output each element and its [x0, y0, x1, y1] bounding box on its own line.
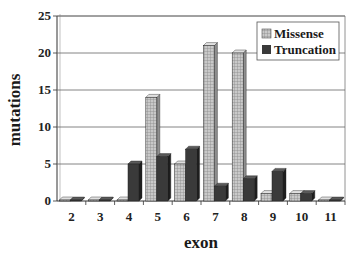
x-tick-label: 6 — [183, 209, 190, 224]
legend: Missense Truncation — [257, 22, 339, 60]
x-tick-label: 10 — [295, 209, 308, 224]
x-tick-label: 7 — [212, 209, 219, 224]
bar-truncation-exon-5 — [157, 154, 171, 201]
x-tick-label: 2 — [68, 209, 75, 224]
y-tick-label: 20 — [38, 45, 51, 60]
bar-truncation-exon-8 — [243, 176, 257, 201]
y-tick-label: 5 — [45, 156, 52, 171]
x-tick-label: 5 — [155, 209, 162, 224]
y-tick-label: 25 — [38, 8, 52, 23]
bar-missense-exon-7 — [203, 43, 217, 201]
bar-truncation-exon-6 — [186, 146, 200, 201]
legend-swatch-truncation — [262, 45, 271, 54]
bar-truncation-exon-4 — [128, 161, 142, 201]
x-axis-title: exon — [184, 233, 219, 252]
y-tick-label: 0 — [45, 193, 52, 208]
bars — [59, 43, 343, 201]
x-tick-label: 3 — [97, 209, 104, 224]
legend-label-truncation: Truncation — [274, 42, 337, 57]
bar-truncation-exon-10 — [301, 191, 315, 201]
y-axis-ticks: 0510152025 — [38, 8, 57, 208]
bar-chart: 0510152025 234567891011 exon mutations M… — [0, 0, 354, 255]
y-axis-title: mutations — [5, 73, 24, 146]
legend-swatch-missense — [262, 29, 271, 38]
legend-label-missense: Missense — [274, 26, 324, 41]
bar-truncation-exon-9 — [272, 168, 286, 201]
x-tick-label: 9 — [270, 209, 277, 224]
x-tick-label: 11 — [324, 209, 336, 224]
y-tick-label: 15 — [38, 82, 52, 97]
x-tick-label: 4 — [126, 209, 133, 224]
x-tick-label: 8 — [241, 209, 248, 224]
bar-truncation-exon-7 — [214, 183, 228, 201]
y-tick-label: 10 — [38, 119, 51, 134]
x-axis-ticks: 234567891011 — [68, 201, 345, 224]
